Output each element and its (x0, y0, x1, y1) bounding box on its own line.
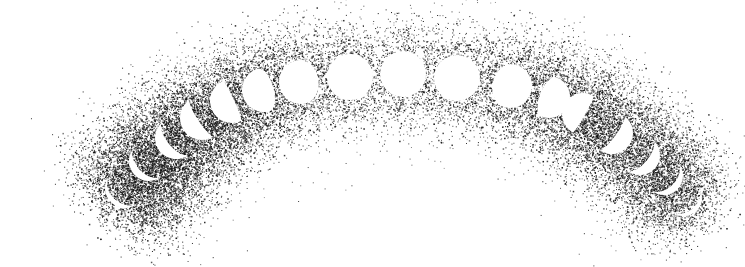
moon-phase-waning-gibbous-icon (488, 61, 536, 112)
moon-phase-waxing-crescent-icon (97, 175, 140, 217)
moon-phase-full-icon (432, 53, 483, 104)
moon-phases-illustration (0, 0, 745, 267)
moon-phase-waxing-crescent-icon (172, 100, 215, 149)
moon-phase-waning-crescent-icon (627, 140, 668, 184)
moon-phase-waning-crescent-icon (651, 162, 691, 202)
moon-phase-full-icon (325, 52, 374, 101)
moon-phase-full-icon (380, 51, 426, 97)
moon-phase-arc (0, 0, 745, 267)
moon-phase-waxing-gibbous-icon (237, 66, 279, 117)
moon-phase-first-quarter-icon (203, 80, 243, 130)
moon-phase-waning-crescent-icon (671, 186, 710, 224)
moon-phase-waxing-gibbous-icon (276, 58, 322, 107)
moon-phase-waning-crescent-icon (600, 116, 642, 162)
moon-phase-waxing-crescent-icon (121, 147, 163, 190)
